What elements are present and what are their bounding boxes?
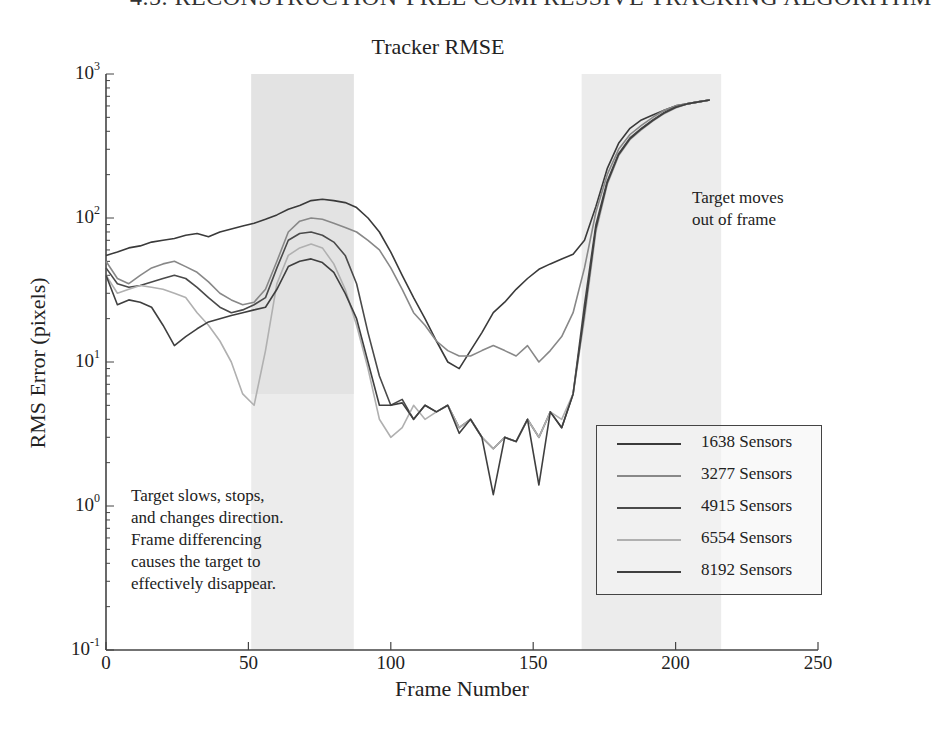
legend-label: 8192 Sensors: [701, 560, 792, 580]
annotation-right: Target moves out of frame: [692, 187, 784, 231]
legend-swatch: [617, 475, 681, 477]
annotation-left-line: causes the target to: [131, 551, 283, 573]
x-tick-label: 50: [223, 652, 273, 674]
x-tick-label: 0: [81, 652, 131, 674]
annotation-right-line: out of frame: [692, 209, 784, 231]
x-tick-label: 100: [366, 652, 416, 674]
x-tick-label: 200: [651, 652, 701, 674]
x-tick-label: 150: [508, 652, 558, 674]
annotation-left-line: Target slows, stops,: [131, 485, 283, 507]
legend-item: 4915 Sensors: [607, 496, 817, 520]
annotation-left-line: and changes direction.: [131, 507, 283, 529]
legend-label: 4915 Sensors: [701, 496, 792, 516]
legend: 1638 Sensors 3277 Sensors 4915 Sensors 6…: [596, 425, 822, 595]
annotation-left-line: Frame differencing: [131, 529, 283, 551]
y-tick-label: 100: [40, 493, 100, 516]
y-tick-label: 103: [40, 61, 100, 84]
legend-swatch: [617, 443, 681, 445]
x-axis-label: Frame Number: [106, 676, 818, 702]
legend-swatch: [617, 571, 681, 573]
legend-swatch: [617, 539, 681, 541]
legend-item: 8192 Sensors: [607, 560, 817, 584]
legend-label: 1638 Sensors: [701, 432, 792, 452]
y-tick-label: 102: [40, 205, 100, 228]
legend-swatch: [617, 507, 681, 509]
annotation-left: Target slows, stops, and changes directi…: [131, 485, 283, 595]
legend-label: 6554 Sensors: [701, 528, 792, 548]
legend-item: 1638 Sensors: [607, 432, 817, 456]
legend-label: 3277 Sensors: [701, 464, 792, 484]
annotation-left-line: effectively disappear.: [131, 573, 283, 595]
annotation-right-line: Target moves: [692, 187, 784, 209]
legend-item: 3277 Sensors: [607, 464, 817, 488]
y-tick-label: 101: [40, 349, 100, 372]
x-tick-label: 250: [793, 652, 843, 674]
legend-item: 6554 Sensors: [607, 528, 817, 552]
